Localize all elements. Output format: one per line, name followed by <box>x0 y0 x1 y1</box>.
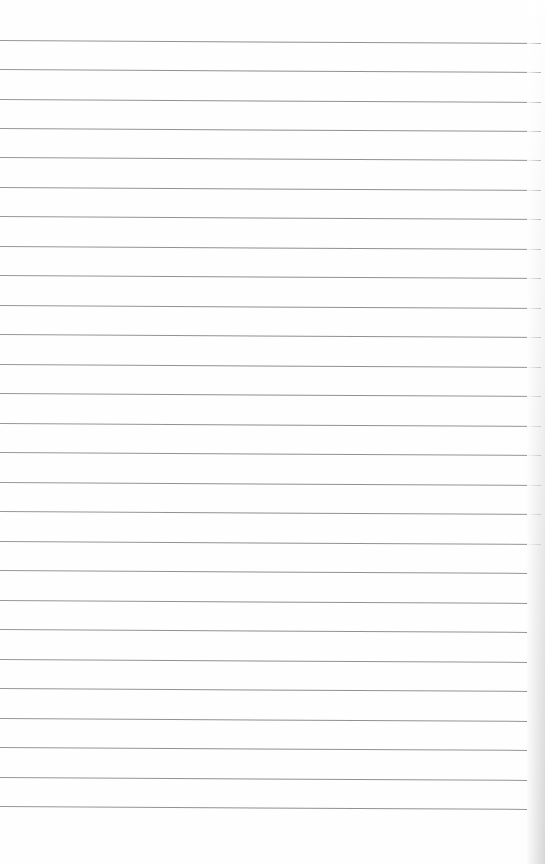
ruled-line <box>0 482 541 486</box>
ruled-line <box>0 157 541 161</box>
ruled-line <box>0 187 541 191</box>
ruled-line <box>0 69 541 73</box>
ruled-line <box>0 511 541 515</box>
ruled-line <box>0 688 529 692</box>
ruled-line <box>0 99 541 103</box>
ruled-line <box>0 541 541 545</box>
ruled-line <box>0 806 529 810</box>
ruled-line <box>0 747 529 751</box>
lined-paper-sheet <box>0 0 545 864</box>
ruled-line <box>0 777 529 781</box>
ruled-line <box>0 128 541 132</box>
ruled-line <box>0 364 541 368</box>
ruled-line <box>0 40 541 44</box>
ruled-line <box>0 334 541 338</box>
ruled-line <box>0 423 541 427</box>
page-edge-shadow <box>527 0 545 864</box>
ruled-line <box>0 600 529 604</box>
ruled-line <box>0 246 541 250</box>
ruled-line <box>0 305 541 309</box>
ruled-line <box>0 629 529 633</box>
ruled-line <box>0 570 529 574</box>
ruled-line <box>0 718 529 722</box>
ruled-line <box>0 452 541 456</box>
ruled-line <box>0 216 541 220</box>
ruled-line <box>0 659 529 663</box>
ruled-line <box>0 275 541 279</box>
ruled-line <box>0 393 541 397</box>
